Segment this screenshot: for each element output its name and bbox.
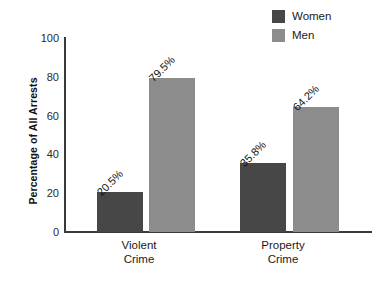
bar-violent-women [97,192,143,232]
y-tick-80: 80 [47,71,59,83]
x-category-line-1: Property [228,238,338,252]
x-category-label-property-crime: Property Crime [228,238,338,266]
plot-area: 100 80 60 40 20 0 20.5% 79.5% 35.8% 64.2… [64,38,372,232]
x-category-line-2: Crime [84,252,194,266]
bar-property-men [293,107,339,232]
x-category-line-2: Crime [228,252,338,266]
x-category-line-1: Violent [84,238,194,252]
y-axis-title: Percentage of All Arrests [27,46,39,236]
y-tick-40: 40 [47,148,59,160]
y-tick-20: 20 [47,187,59,199]
bar-chart: Women Men Percentage of All Arrests 100 … [0,0,387,282]
legend-item-women: Women [272,10,331,23]
y-tick-60: 60 [47,110,59,122]
bar-violent-men [149,78,195,232]
legend-label-women: Women [292,10,331,23]
bar-property-women [240,163,286,232]
y-tick-0: 0 [53,226,59,238]
x-category-label-violent-crime: Violent Crime [84,238,194,266]
y-tick-100: 100 [41,32,59,44]
legend-swatch-women-icon [272,10,285,23]
